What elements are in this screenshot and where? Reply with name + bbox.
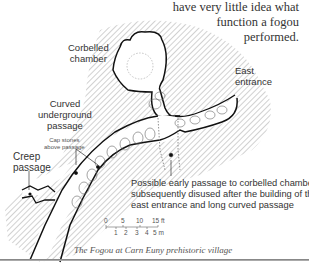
intro-line: have very little idea what [173,0,299,15]
label-line: chamber [68,53,109,64]
scale-ft-5: 5 [121,217,125,224]
label-cap-stones: Cap stones above passage [44,137,85,151]
label-east-entrance: East entrance [235,65,272,87]
scale-m-5: 5 m [153,229,164,236]
intro-line: function a fogou [173,15,299,30]
scale-ft-0: 0 [104,217,108,224]
scale-ft-15: 15 ft [152,217,165,224]
label-line: Curved [38,98,92,109]
label-creep-passage: Creep passage [13,151,51,173]
label-corbelled-chamber: Corbelled chamber [68,42,109,64]
scale-m-1: 1 [114,229,118,236]
intro-text: have very little idea what function a fo… [173,0,299,45]
label-line: Corbelled [68,42,109,53]
scale-m-2: 2 [124,229,128,236]
label-line: Cap stones [44,137,85,144]
early-passage-note: Possible early passage to corbelled cham… [131,178,309,211]
intro-line: performed. [173,30,299,45]
label-line: underground [38,109,92,120]
label-curved-passage: Curved underground passage [38,98,92,131]
label-line: Creep [13,151,51,162]
note-line: subsequently disused after the building … [131,189,309,200]
scale-ft-10: 10 [136,217,143,224]
label-line: passage [13,162,51,173]
label-line: passage [38,120,92,131]
label-line: above passage [44,144,85,151]
figure-caption: The Fogou at Carn Euny prehistoric villa… [74,245,232,255]
scale-m-3: 3 [135,229,139,236]
label-line: East [235,65,272,76]
note-line: east entrance and long curved passage [131,200,309,211]
note-line: Possible early passage to corbelled cham… [131,178,309,189]
scale-m-4: 4 [145,229,149,236]
label-line: entrance [235,76,272,87]
divider-rule [0,259,309,261]
